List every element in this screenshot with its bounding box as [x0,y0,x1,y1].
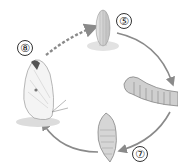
butterfly-icon [16,60,68,127]
arrow-butterfly-to-egg [46,28,92,55]
arrow-caterpillar-to-pupa [122,112,170,150]
life-cycle-diagram: ⑧ ⑤ ⑦ [0,0,178,163]
stage-label-butterfly: ⑧ [17,40,33,56]
arrow-egg-to-caterpillar [117,33,172,82]
arrow-pupa-to-butterfly [44,125,98,152]
stage-label-egg: ⑤ [116,13,132,29]
egg-icon [87,10,119,51]
pupa-icon [98,113,116,162]
stage-label-pupa: ⑦ [132,146,148,162]
caterpillar-icon [124,77,178,106]
diagram-graphics [0,0,178,163]
